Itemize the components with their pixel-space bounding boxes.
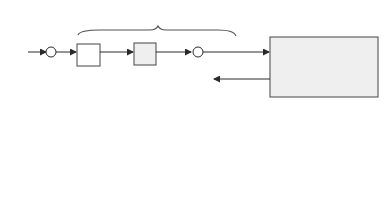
plant-block (270, 37, 378, 97)
gain-k-block (134, 43, 156, 65)
block-diagram (0, 0, 388, 202)
diagram-a (28, 26, 378, 97)
integrator-block (77, 44, 100, 66)
summing-junction-1 (46, 47, 56, 57)
summing-junction-2 (193, 47, 203, 57)
controller-brace (78, 26, 236, 36)
